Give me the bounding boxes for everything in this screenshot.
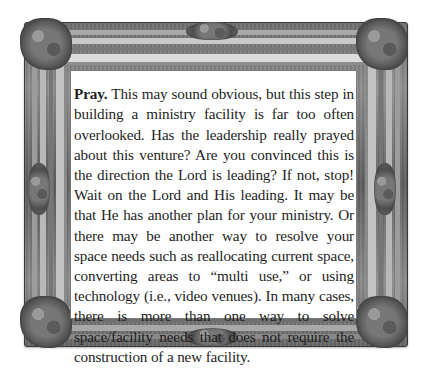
body-paragraph: Pray. This may sound obvious, but this s… [74, 84, 354, 367]
frame-side-ornament-icon [374, 163, 396, 215]
frame-corner-ornament-icon [356, 18, 408, 70]
frame-corner-ornament-icon [356, 296, 408, 348]
frame-top-ornament-icon [186, 22, 238, 40]
frame-corner-ornament-icon [20, 18, 72, 70]
paragraph-body: This may sound obvious, but this step in… [74, 85, 354, 365]
lead-word: Pray. [74, 85, 107, 102]
frame-corner-ornament-icon [20, 296, 72, 348]
frame-side-ornament-icon [28, 163, 50, 215]
